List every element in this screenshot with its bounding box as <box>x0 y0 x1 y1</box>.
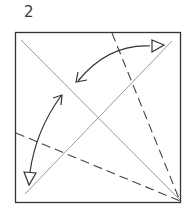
fold-arrow-left <box>24 95 62 185</box>
fold-diagram <box>0 0 195 214</box>
fold-arrow-left-shaft <box>30 96 61 172</box>
valley-fold-line-top <box>112 33 180 201</box>
hollow-arrowhead-icon <box>24 172 36 185</box>
valley-fold-line-left <box>16 133 180 201</box>
crease-diagonal-main <box>21 40 180 200</box>
fold-arrow-upper <box>76 40 164 82</box>
hollow-arrowhead-icon <box>152 40 164 52</box>
